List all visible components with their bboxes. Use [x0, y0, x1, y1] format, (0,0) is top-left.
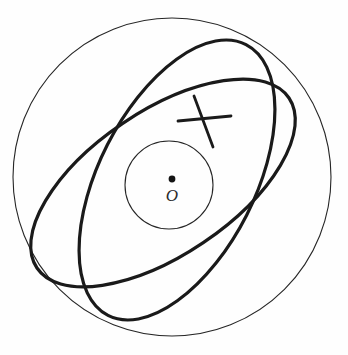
- inner-circle: [125, 141, 213, 229]
- center-point-dot: [169, 176, 176, 183]
- ellipse-shallow: [0, 38, 329, 327]
- tick-mark-steep: [194, 96, 213, 147]
- figure-canvas: O: [0, 0, 348, 355]
- orbit-diagram: O: [0, 0, 348, 355]
- center-point-label: O: [166, 186, 178, 205]
